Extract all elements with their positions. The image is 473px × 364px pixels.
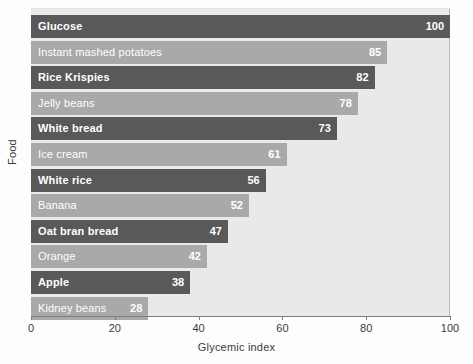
glycemic-index-bar-chart: Food Glucose100Instant mashed potatoes85… bbox=[0, 0, 473, 364]
bar-row: White rice56 bbox=[31, 169, 449, 192]
bar-value-label: 85 bbox=[353, 41, 381, 64]
x-axis-tick-label: 80 bbox=[346, 322, 386, 334]
bar-value-label: 56 bbox=[232, 169, 260, 192]
bar-category-label: Instant mashed potatoes bbox=[38, 41, 162, 64]
x-axis-tick bbox=[115, 316, 116, 320]
x-axis-tick-label: 0 bbox=[11, 322, 51, 334]
x-axis-tick-label: 100 bbox=[430, 322, 470, 334]
bar-row: Orange42 bbox=[31, 245, 449, 268]
x-axis-tick bbox=[282, 316, 283, 320]
bar-category-label: Banana bbox=[38, 194, 77, 217]
bars-container: Glucose100Instant mashed potatoes85Rice … bbox=[31, 9, 449, 316]
x-axis-tick-label: 60 bbox=[262, 322, 302, 334]
bar-value-label: 47 bbox=[194, 220, 222, 243]
bar-category-label: Orange bbox=[38, 245, 76, 268]
bar-row: Oat bran bread47 bbox=[31, 220, 449, 243]
bar-category-label: White bread bbox=[38, 117, 103, 140]
x-axis-tick bbox=[366, 316, 367, 320]
bar-category-label: Rice Krispies bbox=[38, 66, 110, 89]
bar-value-label: 42 bbox=[173, 245, 201, 268]
bar-row: Banana52 bbox=[31, 194, 449, 217]
x-axis-tick bbox=[31, 316, 32, 320]
bar-value-label: 38 bbox=[156, 271, 184, 294]
bar-value-label: 61 bbox=[253, 143, 281, 166]
bar-row: Apple38 bbox=[31, 271, 449, 294]
x-axis-tick bbox=[450, 316, 451, 320]
bar-category-label: Apple bbox=[38, 271, 69, 294]
bar-row: Ice cream61 bbox=[31, 143, 449, 166]
x-axis-title: Glycemic index bbox=[0, 341, 473, 353]
bar-row: Instant mashed potatoes85 bbox=[31, 41, 449, 64]
x-axis-tick bbox=[199, 316, 200, 320]
bar-row: Rice Krispies82 bbox=[31, 66, 449, 89]
bar-value-label: 100 bbox=[416, 15, 444, 38]
bar-category-label: Oat bran bread bbox=[38, 220, 118, 243]
bar[interactable] bbox=[31, 15, 450, 38]
bar-category-label: Ice cream bbox=[38, 143, 88, 166]
bar-row: Jelly beans78 bbox=[31, 92, 449, 115]
bar-value-label: 82 bbox=[341, 66, 369, 89]
bar-category-label: Glucose bbox=[38, 15, 82, 38]
bar-row: Glucose100 bbox=[31, 15, 449, 38]
bar-row: White bread73 bbox=[31, 117, 449, 140]
y-axis-title: Food bbox=[6, 122, 18, 182]
bar-value-label: 52 bbox=[215, 194, 243, 217]
bar-category-label: Jelly beans bbox=[38, 92, 95, 115]
x-axis-line bbox=[31, 316, 451, 317]
bar-category-label: White rice bbox=[38, 169, 92, 192]
plot-area: Glucose100Instant mashed potatoes85Rice … bbox=[31, 8, 450, 316]
x-axis-tick-label: 20 bbox=[95, 322, 135, 334]
x-axis-tick-label: 40 bbox=[179, 322, 219, 334]
bar-value-label: 78 bbox=[324, 92, 352, 115]
bar-value-label: 73 bbox=[303, 117, 331, 140]
